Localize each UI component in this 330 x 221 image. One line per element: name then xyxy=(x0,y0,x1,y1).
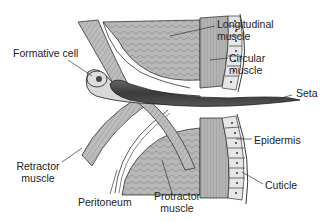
label-epidermis: Epidermis xyxy=(254,134,301,146)
leader-cuticle xyxy=(242,172,263,184)
label-longitudinal-line2: muscle xyxy=(217,30,274,42)
label-seta: Seta xyxy=(296,87,318,99)
label-formative-cell: Formative cell xyxy=(13,47,78,59)
label-protractor-muscle: Protractor muscle xyxy=(150,190,204,214)
label-retractor-muscle: Retractor muscle xyxy=(14,160,62,184)
label-protractor-line2: muscle xyxy=(150,202,204,214)
label-circular-line2: muscle xyxy=(229,64,265,76)
label-retractor-line1: Retractor xyxy=(14,160,62,172)
leader-formative-cell xyxy=(68,60,92,76)
label-longitudinal-muscle: Longitudinal muscle xyxy=(217,18,274,42)
leader-peritoneum xyxy=(110,170,117,194)
label-circular-line1: Circular xyxy=(229,52,265,64)
label-cuticle: Cuticle xyxy=(265,179,297,191)
label-protractor-line1: Protractor xyxy=(150,190,204,202)
leader-retractor-muscle xyxy=(62,148,82,162)
label-longitudinal-line1: Longitudinal xyxy=(217,18,274,30)
label-peritoneum: Peritoneum xyxy=(78,196,132,208)
label-retractor-line2: muscle xyxy=(14,172,62,184)
label-circular-muscle: Circular muscle xyxy=(229,52,265,76)
formative-cell-nucleus xyxy=(96,76,102,82)
